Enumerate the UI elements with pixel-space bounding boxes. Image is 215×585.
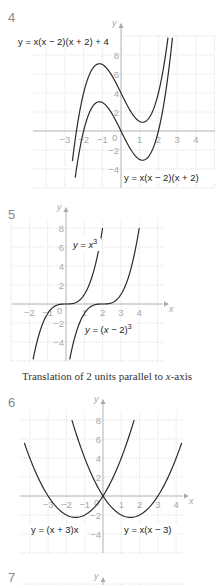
- problem-number: 4: [8, 10, 15, 25]
- curve-label-original: y = x(x − 2)(x + 2): [124, 172, 199, 183]
- svg-text:−2: −2: [78, 134, 89, 145]
- svg-text:y: y: [93, 571, 99, 581]
- svg-text:y: y: [56, 202, 62, 212]
- svg-text:x: x: [168, 304, 174, 314]
- curves: [72, 38, 172, 178]
- svg-text:8: 8: [59, 223, 64, 234]
- svg-text:4: 4: [193, 134, 198, 145]
- svg-text:−1: −1: [97, 134, 108, 145]
- svg-text:0: 0: [112, 132, 117, 143]
- grid: y: [20, 571, 183, 585]
- svg-text:−2: −2: [61, 499, 72, 510]
- svg-text:4: 4: [59, 261, 64, 272]
- caption: Translation of 2 units parallel to x-axi…: [22, 370, 192, 382]
- svg-text:4: 4: [137, 307, 142, 318]
- svg-text:4: 4: [114, 88, 119, 99]
- graph-problem-5: 5 yx −2−1012348642−2−4 y = x3 y = (x − 2…: [8, 202, 192, 382]
- grid: [33, 36, 215, 188]
- svg-text:6: 6: [96, 434, 101, 445]
- svg-text:4: 4: [174, 499, 179, 510]
- svg-text:2: 2: [114, 107, 119, 118]
- problem-number: 7: [8, 570, 15, 585]
- svg-text:−2: −2: [24, 307, 35, 318]
- svg-text:3: 3: [174, 134, 179, 145]
- svg-text:y: y: [93, 394, 99, 404]
- svg-text:y: y: [111, 18, 117, 28]
- svg-text:2: 2: [96, 472, 101, 483]
- svg-text:0: 0: [57, 305, 62, 316]
- svg-text:3: 3: [155, 499, 160, 510]
- svg-text:−2: −2: [53, 318, 64, 329]
- graph-problem-7: 7 y: [8, 570, 183, 585]
- svg-text:−2: −2: [108, 145, 119, 156]
- graphs-canvas: 4 y −3−2−1012348642−2−4 y = x(x − 2)(x +…: [0, 0, 215, 585]
- svg-text:1: 1: [137, 134, 142, 145]
- svg-text:x: x: [188, 496, 194, 506]
- svg-text:8: 8: [96, 415, 101, 426]
- curve-label-right: y = x(x − 3): [124, 524, 172, 535]
- graph-problem-4: 4 y −3−2−1012348642−2−4 y = x(x − 2)(x +…: [8, 10, 215, 188]
- curve-label-shifted: y = x(x − 2)(x + 2) + 4: [18, 36, 109, 47]
- svg-text:1: 1: [119, 499, 124, 510]
- svg-text:2: 2: [100, 307, 105, 318]
- svg-text:4: 4: [96, 453, 101, 464]
- svg-text:−4: −4: [90, 529, 101, 540]
- svg-text:−2: −2: [90, 510, 101, 521]
- graph-problem-6: 6 yx −3−2−1012348642−2−4 y = (x + 3)x y …: [8, 394, 194, 553]
- svg-text:8: 8: [114, 50, 119, 61]
- svg-text:2: 2: [59, 280, 64, 291]
- svg-text:3: 3: [118, 307, 123, 318]
- axes: yx: [12, 202, 174, 361]
- svg-text:2: 2: [137, 499, 142, 510]
- problem-number: 5: [8, 207, 15, 222]
- svg-text:−4: −4: [53, 337, 64, 348]
- curve-label-translated: y = (x − 2)3: [84, 323, 132, 335]
- svg-text:−4: −4: [108, 164, 119, 175]
- svg-text:−1: −1: [79, 499, 90, 510]
- svg-text:6: 6: [59, 242, 64, 253]
- svg-text:−3: −3: [59, 134, 70, 145]
- svg-text:6: 6: [114, 69, 119, 80]
- curve-label-left: y = (x + 3)x: [31, 524, 79, 535]
- curve-2: [75, 38, 172, 178]
- problem-number: 6: [8, 395, 15, 410]
